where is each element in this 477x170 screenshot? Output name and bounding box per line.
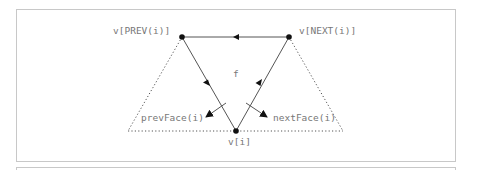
face-f-label: f <box>233 68 239 79</box>
arrow-down-right-icon <box>203 80 210 87</box>
mesh-diagram: v[PREV(i)] v[NEXT(i)] v[i] f prevFace(i)… <box>0 0 477 170</box>
face-pointers <box>206 103 267 117</box>
vertex-i-label: v[i] <box>228 136 251 147</box>
prevface-pointer <box>206 103 226 117</box>
vertex-prev-label: v[PREV(i)] <box>113 25 170 36</box>
nextface-label: nextFace(i) <box>273 112 336 123</box>
vertex-next-label: v[NEXT(i)] <box>299 25 356 36</box>
arrow-up-right-icon <box>256 79 263 86</box>
arrow-left-icon <box>233 34 239 40</box>
vertex-prev <box>179 34 185 40</box>
vertex-next <box>286 34 292 40</box>
prevface-label: prevFace(i) <box>141 112 204 123</box>
vertex-i <box>233 128 239 134</box>
nextface-pointer <box>246 103 267 117</box>
